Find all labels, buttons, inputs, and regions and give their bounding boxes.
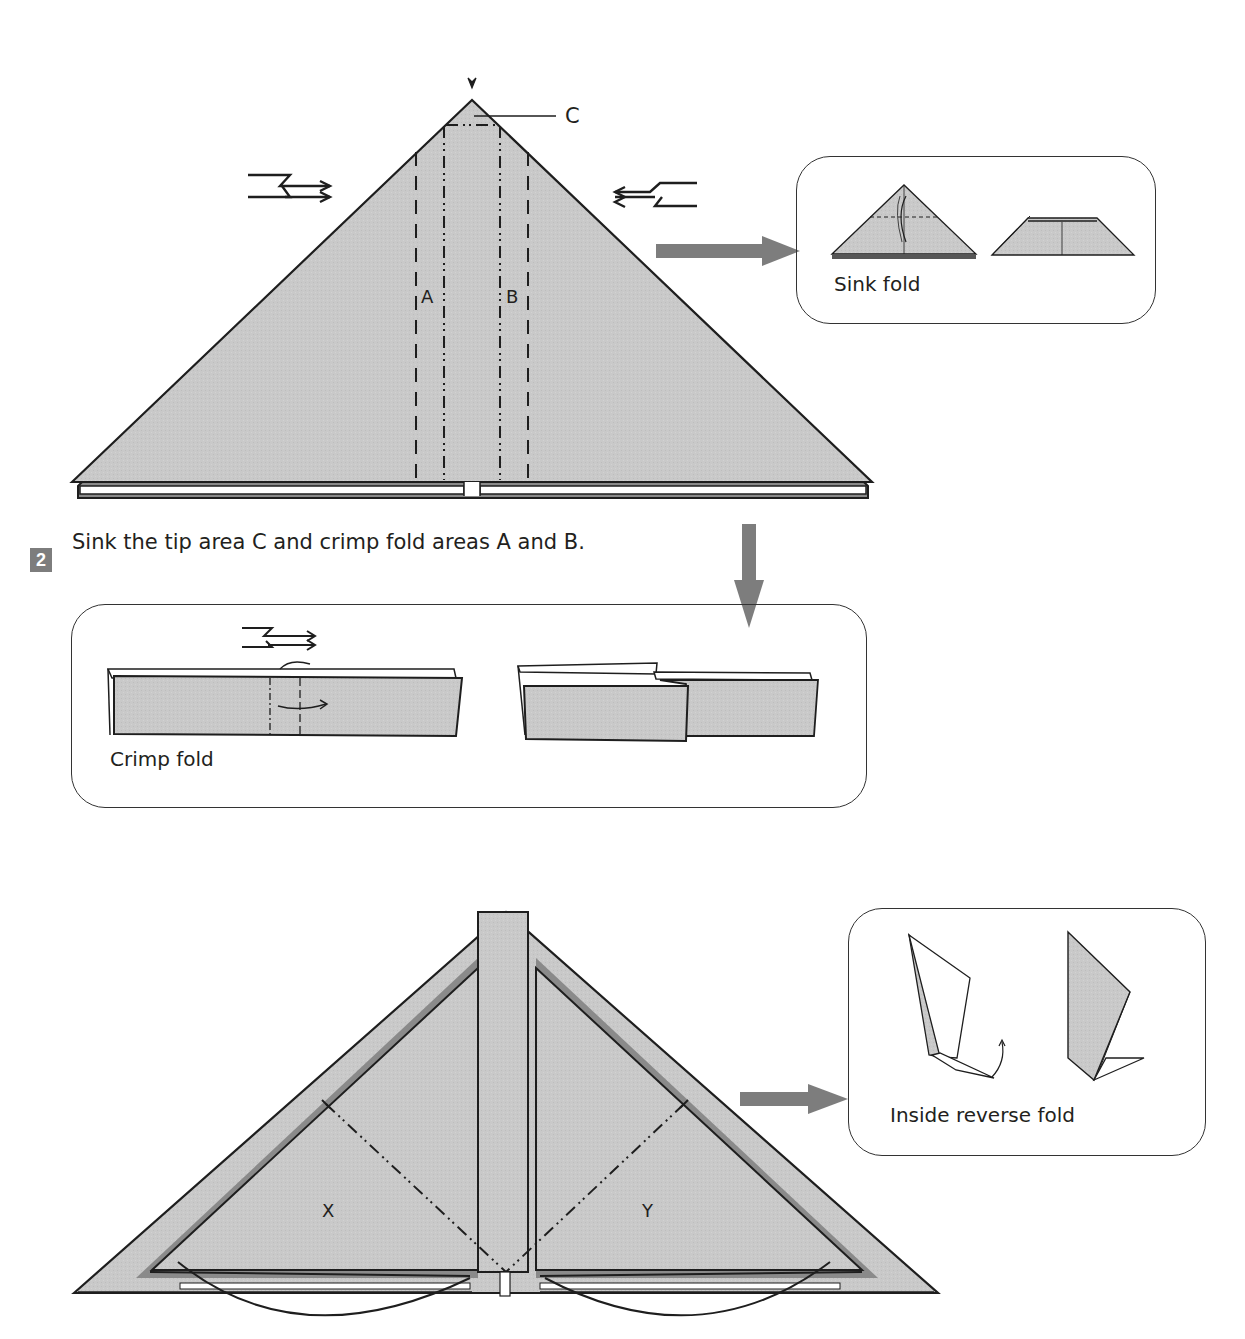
fold-label-x: X	[322, 1200, 334, 1221]
step1-triangle	[72, 100, 872, 498]
inside-reverse-fold-caption: Inside reverse fold	[890, 1103, 1075, 1127]
fold-label-b: B	[506, 286, 518, 307]
sink-fold-caption: Sink fold	[834, 272, 920, 296]
push-arrow-down-icon	[468, 78, 476, 88]
gray-arrow-right-icon	[740, 1084, 848, 1114]
crimp-fold-inset	[71, 604, 867, 808]
fold-label-c: C	[565, 104, 580, 128]
fold-label-y: Y	[642, 1200, 653, 1221]
crimp-symbol-right-icon	[248, 175, 330, 202]
gray-arrow-right-icon	[656, 236, 800, 266]
step-number-badge: 2	[30, 548, 52, 572]
step-instruction: Sink the tip area C and crimp fold areas…	[72, 530, 585, 554]
sink-fold-inset	[796, 156, 1156, 324]
crimp-fold-caption: Crimp fold	[110, 747, 214, 771]
crimp-symbol-left-icon	[615, 183, 697, 207]
fold-label-a: A	[421, 286, 433, 307]
